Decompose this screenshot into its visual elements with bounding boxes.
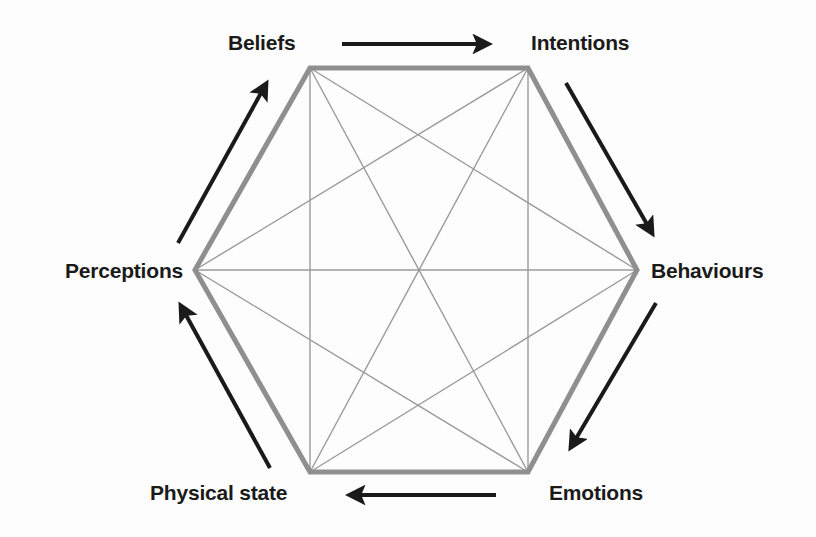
node-label-behaviours: Behaviours (651, 259, 763, 283)
inner-line-intentions-perceptions (195, 68, 528, 270)
node-label-perceptions: Perceptions (65, 259, 183, 283)
node-label-physical-state: Physical state (150, 481, 287, 505)
inner-line-emotions-perceptions (195, 270, 528, 472)
arrow-behaviours-to-emotions (571, 303, 656, 447)
node-label-intentions: Intentions (531, 31, 629, 55)
inner-connection-lines (195, 68, 637, 472)
node-label-beliefs: Beliefs (228, 31, 295, 55)
node-label-emotions: Emotions (549, 481, 643, 505)
inner-line-behaviours-physical (310, 270, 637, 472)
arrow-physical-to-perceptions (181, 306, 270, 468)
hexagon-diagram: Beliefs Intentions Behaviours Emotions P… (0, 0, 816, 537)
